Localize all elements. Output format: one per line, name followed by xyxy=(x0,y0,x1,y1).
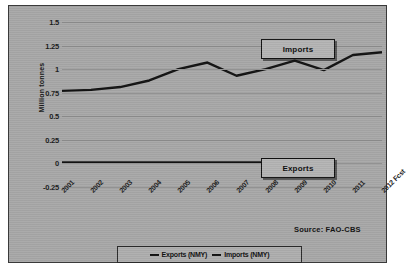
gridline xyxy=(62,116,382,117)
annotation-exports-label: Exports xyxy=(282,164,313,173)
gridline xyxy=(62,22,382,23)
annotation-imports-label: Imports xyxy=(283,45,314,54)
chart-frame: 1.51.2510.750.50.250-0.25 Million tonnes… xyxy=(8,5,387,263)
gridline xyxy=(62,69,382,70)
annotation-imports: Imports xyxy=(261,39,335,59)
y-axis-tick-label: 0 xyxy=(55,159,59,168)
gridline xyxy=(62,140,382,141)
y-axis-tick-label: 1.25 xyxy=(45,41,59,50)
gridline xyxy=(62,187,382,188)
x-axis-tick-label: 2012 Fcst xyxy=(380,168,406,194)
y-axis-tick-label: 1.5 xyxy=(49,18,59,27)
y-axis-tick-label: 0.5 xyxy=(49,112,59,121)
y-axis-tick-label: 1 xyxy=(55,65,59,74)
legend-swatch-exports xyxy=(150,254,159,256)
y-axis-tick-label: 0.75 xyxy=(45,88,59,97)
legend-swatch-imports xyxy=(212,254,221,256)
y-axis-tick-label: -0.25 xyxy=(43,183,59,192)
annotation-exports: Exports xyxy=(261,158,335,178)
y-axis-title: Million tonnes xyxy=(38,48,45,128)
legend-label-imports: Imports (NMY) xyxy=(224,251,269,258)
legend-label-exports: Exports (NMY) xyxy=(162,251,208,258)
y-axis-tick-label: 0.25 xyxy=(45,135,59,144)
gridline xyxy=(62,93,382,94)
chart-legend: Exports (NMY) Imports (NMY) xyxy=(117,246,302,263)
legend-item-imports: Imports (NMY) xyxy=(212,251,269,258)
y-axis-ticks: 1.51.2510.750.50.250-0.25 xyxy=(9,22,59,187)
source-note: Source: FAO-CBS xyxy=(294,225,361,234)
legend-item-exports: Exports (NMY) xyxy=(150,251,208,258)
